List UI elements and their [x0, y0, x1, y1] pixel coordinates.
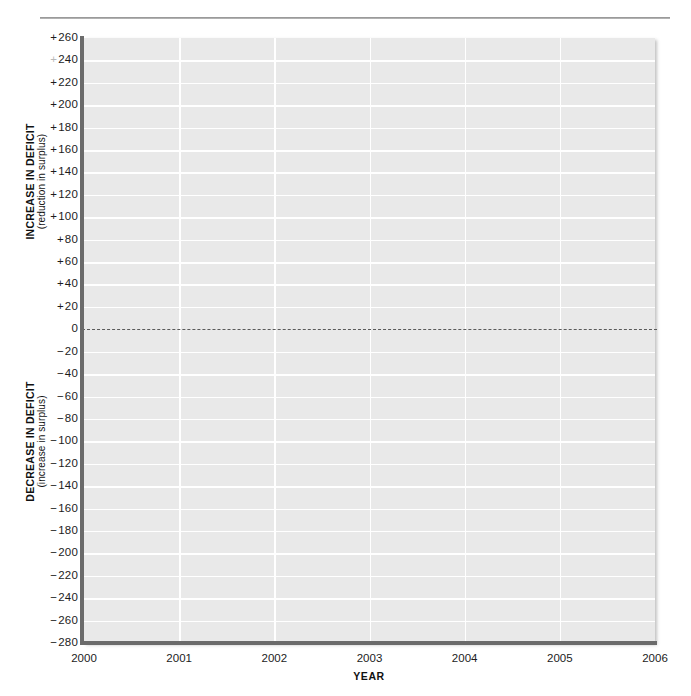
gridline-vertical	[274, 38, 276, 643]
x-tick-label: 2005	[547, 652, 573, 664]
horizontal-gridlines	[84, 38, 655, 643]
gridline-horizontal	[84, 60, 655, 62]
chart-figure: +260+240+220+200+180+160+140+120+100+80+…	[0, 0, 691, 696]
y-tick-label: 0	[4, 322, 78, 334]
gridline-horizontal	[84, 621, 655, 623]
y-tick-label: −280	[4, 636, 78, 648]
gridline-horizontal	[84, 598, 655, 600]
gridline-horizontal	[84, 419, 655, 421]
y-axis-title-upper-main: INCREASE IN DEFICIT	[24, 87, 36, 277]
y-tick-label: −240	[4, 591, 78, 603]
x-tick-label: 2003	[357, 652, 383, 664]
gridline-horizontal	[84, 486, 655, 488]
y-axis-spine	[80, 36, 84, 645]
x-tick-label: 2006	[642, 652, 668, 664]
gridline-horizontal	[84, 531, 655, 533]
top-divider-rule	[40, 17, 670, 19]
y-tick-label: −220	[4, 569, 78, 581]
gridline-horizontal	[84, 217, 655, 219]
gridline-horizontal	[84, 352, 655, 354]
y-axis-title-lower-sub: (increase in surplus)	[36, 347, 47, 537]
y-tick-label: −260	[4, 614, 78, 626]
y-axis-title-lower: DECREASE IN DEFICIT (increase in surplus…	[24, 347, 47, 537]
gridline-horizontal	[84, 374, 655, 376]
gridline-horizontal	[84, 105, 655, 107]
gridline-horizontal	[84, 464, 655, 466]
gridline-vertical	[465, 38, 467, 643]
gridline-horizontal	[84, 576, 655, 578]
y-tick-label: −200	[4, 546, 78, 558]
x-tick-label: 2000	[71, 652, 97, 664]
y-axis-title-lower-main: DECREASE IN DEFICIT	[24, 347, 36, 537]
x-axis-title: YEAR	[353, 670, 385, 682]
gridline-horizontal	[84, 195, 655, 197]
x-axis-spine	[80, 641, 657, 645]
gridline-horizontal	[84, 284, 655, 286]
plot-area	[84, 38, 655, 643]
gridline-horizontal	[84, 441, 655, 443]
x-tick-label: 2002	[262, 652, 288, 664]
x-tick-label: 2004	[452, 652, 478, 664]
y-tick-label: +240	[4, 53, 78, 65]
zero-reference-line	[82, 329, 657, 330]
gridline-horizontal	[84, 83, 655, 85]
y-tick-label: +40	[4, 277, 78, 289]
gridline-vertical	[179, 38, 181, 643]
vertical-gridlines	[84, 38, 655, 643]
gridline-horizontal	[84, 172, 655, 174]
gridline-horizontal	[84, 307, 655, 309]
gridline-horizontal	[84, 128, 655, 130]
gridline-vertical	[370, 38, 372, 643]
gridline-horizontal	[84, 397, 655, 399]
y-axis-title-upper: INCREASE IN DEFICIT (reduction in surplu…	[24, 87, 47, 277]
gridline-horizontal	[84, 262, 655, 264]
y-tick-label: +20	[4, 300, 78, 312]
gridline-vertical	[560, 38, 562, 643]
x-tick-label: 2001	[166, 652, 192, 664]
y-axis-title-upper-sub: (reduction in surplus)	[36, 87, 47, 277]
y-tick-label: +260	[4, 31, 78, 43]
gridline-horizontal	[84, 150, 655, 152]
gridline-horizontal	[84, 553, 655, 555]
gridline-horizontal	[84, 509, 655, 511]
gridline-horizontal	[84, 240, 655, 242]
